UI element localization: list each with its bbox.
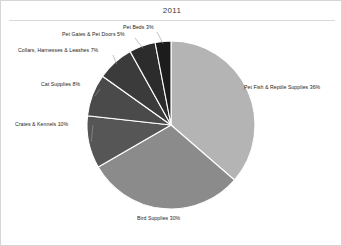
slice-label-bird-supplies: Bird Supplies 30% bbox=[137, 216, 180, 221]
slice-label-pet-gates-pet-doors: Pet Gates & Pet Doors 5% bbox=[62, 32, 125, 37]
pie-slice-group bbox=[87, 41, 255, 209]
chart-frame: 2011 Pet Fish & Reptile Supplies 36% Bir… bbox=[0, 0, 342, 246]
slice-label-crates-kennels: Crates & Kennels 10% bbox=[15, 122, 68, 127]
slice-label-pet-fish-reptile-supplies: Pet Fish & Reptile Supplies 36% bbox=[244, 85, 320, 90]
slice-label-collars-harnesses-leashes: Collars, Harnesses & Leashes 7% bbox=[18, 48, 98, 53]
slice-label-pet-beds: Pet Beds 3% bbox=[123, 25, 154, 30]
pie-plot-area: Pet Fish & Reptile Supplies 36% Bird Sup… bbox=[1, 1, 342, 246]
slice-label-cat-supplies: Cat Supplies 8% bbox=[41, 82, 80, 87]
